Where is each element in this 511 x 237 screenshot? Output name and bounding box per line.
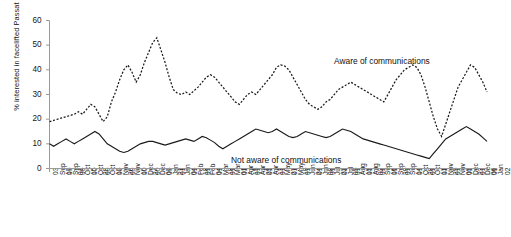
y-axis-ticks (46, 21, 50, 169)
series-line-aware (50, 38, 488, 137)
annotation-not-aware-of-communications: Not aware of communications (231, 155, 341, 165)
x-axis-ticks (50, 169, 488, 173)
series-line-not-aware (50, 127, 488, 159)
annotation-aware-of-communications: Aware of communications (334, 56, 430, 66)
